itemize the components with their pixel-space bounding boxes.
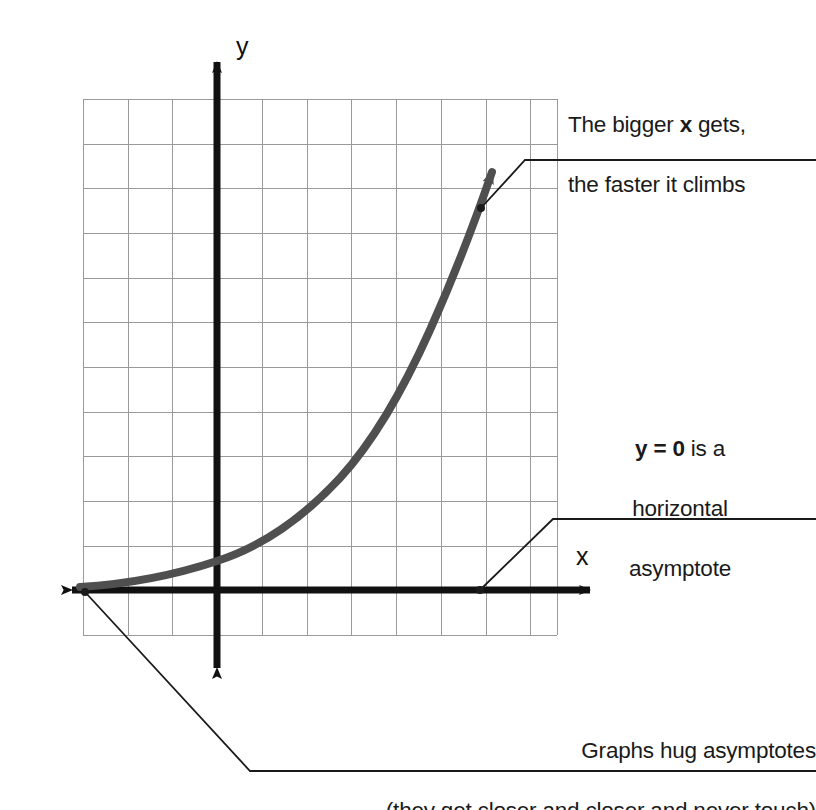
callout-hug-line2: (they get closer and closer and never to… [386, 798, 816, 810]
callout-asymptote-line1-suffix: is a [685, 436, 725, 461]
callout-hug: Graphs hug asymptotes (they get closer a… [246, 706, 816, 810]
exponential-curve [80, 172, 492, 587]
y-axis-label: y [236, 32, 249, 61]
callout-asymptote-line2: horizontal [632, 496, 728, 521]
callout-hug-line1: Graphs hug asymptotes [581, 738, 816, 763]
callout-climbs-line1-bold: x [680, 112, 692, 137]
exponential-graph-figure: y x The bigger x gets, the faster it cli… [0, 0, 816, 810]
callout-asymptote-line1-bold: y = 0 [635, 436, 685, 461]
callout-climbs-line1-suffix: gets, [692, 112, 746, 137]
callout-climbs-line2: the faster it climbs [568, 172, 745, 197]
callout-climbs: The bigger x gets, the faster it climbs [568, 80, 816, 200]
callout-asymptote-line3: asymptote [629, 556, 731, 581]
callout-asymptote: y = 0 is a horizontal asymptote [560, 404, 800, 584]
callout-climbs-line1-prefix: The bigger [568, 112, 680, 137]
